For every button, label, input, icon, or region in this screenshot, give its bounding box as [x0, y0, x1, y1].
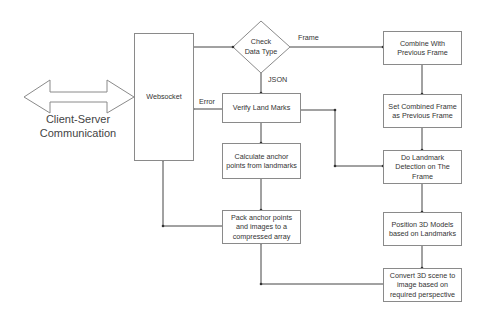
calculate-anchor-label: Calculate anchor points from landmarks	[225, 152, 298, 171]
position-models-label: Position 3D Models based on Landmarks	[386, 220, 459, 239]
edge-label-error: Error	[199, 97, 215, 106]
set-combined-frame-label: Set Combined Frame as Previous Frame	[386, 102, 459, 121]
edge-pack-websocket	[163, 160, 222, 226]
verify-landmarks-node: Verify Land Marks	[222, 93, 301, 123]
convert-scene-node: Convert 3D scene to image based on requi…	[383, 268, 462, 302]
edge-label-frame: Frame	[298, 33, 319, 42]
edge-verify-detect	[300, 110, 383, 166]
websocket-node: Websocket	[134, 33, 194, 161]
set-combined-frame-node: Set Combined Frame as Previous Frame	[383, 94, 462, 128]
position-models-node: Position 3D Models based on Landmarks	[383, 212, 462, 246]
check-label-line2: Data Type	[236, 47, 286, 57]
edge-label-json: JSON	[268, 75, 287, 84]
client-server-label: Client-Server Communication	[28, 112, 128, 140]
convert-scene-label: Convert 3D scene to image based on requi…	[386, 271, 459, 300]
combine-frame-node: Combine With Previous Frame	[383, 31, 462, 65]
client-server-label-line1: Client-Server	[28, 112, 128, 126]
calculate-anchor-node: Calculate anchor points from landmarks	[222, 143, 301, 179]
double-arrow-shape	[24, 80, 134, 113]
client-server-label-line2: Communication	[28, 126, 128, 140]
edge-convert-pack	[261, 243, 383, 284]
check-label-line1: Check	[236, 37, 286, 47]
websocket-node-label: Websocket	[146, 92, 181, 102]
landmark-detection-label: Do Landmark Detection on The Frame	[386, 153, 459, 182]
pack-anchor-label: Pack anchor points and images to a compr…	[225, 213, 298, 242]
combine-frame-label: Combine With Previous Frame	[386, 39, 459, 58]
check-data-type-label: Check Data Type	[236, 37, 286, 56]
pack-anchor-node: Pack anchor points and images to a compr…	[222, 210, 301, 244]
landmark-detection-node: Do Landmark Detection on The Frame	[383, 150, 462, 184]
verify-landmarks-label: Verify Land Marks	[233, 103, 291, 113]
